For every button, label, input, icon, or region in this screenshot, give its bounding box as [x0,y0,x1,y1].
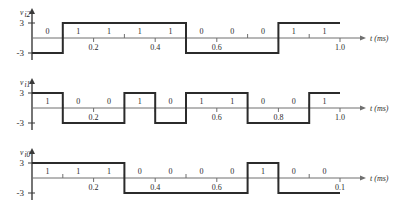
bit-label: 1 [138,27,142,36]
bit-label: 1 [323,97,327,106]
t-axis-arrow [360,175,366,180]
waveform-svg: vi2t (ms)3-30.20.40.61.00111100011vi1t (… [0,0,395,217]
tick-label: 0.6 [212,113,222,122]
bit-label: 1 [169,27,173,36]
tick-label: 0.6 [212,43,222,52]
bit-label: 0 [199,27,203,36]
bit-label: 0 [169,97,173,106]
level-label-low: -3 [17,118,25,128]
waveform-plot-vi0: vi0t (ms)3-30.20.40.60.11110000100 [17,148,389,200]
tick-label: 0.8 [273,113,283,122]
bit-label: 1 [76,27,80,36]
waveform-plot-vi1: vi1t (ms)3-30.20.60.81.01001011001 [17,78,389,130]
svg-text:i1: i1 [25,80,31,89]
bit-label: 0 [323,167,327,176]
bit-label: 0 [138,167,142,176]
bit-label: 0 [107,97,111,106]
svg-text:i0: i0 [25,150,31,159]
bit-label: 0 [169,167,173,176]
t-axis-unit-label: t (ms) [370,104,389,113]
tick-label: 1.0 [335,43,345,52]
bit-label: 0 [261,27,265,36]
tick-label: 0.4 [150,183,160,192]
t-axis-unit-label: t (ms) [370,174,389,183]
svg-text:v: v [20,148,24,157]
t-axis-arrow [360,105,366,110]
tick-label: 0.2 [89,43,99,52]
bit-label: 1 [323,27,327,36]
bit-label: 0 [76,97,80,106]
svg-text:i2: i2 [25,10,31,19]
svg-text:v: v [20,78,24,87]
bit-label: 1 [292,27,296,36]
tick-label: 0.2 [89,113,99,122]
bit-label: 1 [107,27,111,36]
level-label-low: -3 [17,188,25,198]
t-axis-unit-label: t (ms) [370,34,389,43]
bit-label: 0 [261,97,265,106]
bit-label: 1 [45,167,49,176]
tick-label: 1.0 [335,113,345,122]
bit-label: 1 [45,97,49,106]
tick-label: 0.2 [89,183,99,192]
bit-label: 0 [292,97,296,106]
bit-label: 1 [230,97,234,106]
level-label-high: 3 [20,18,25,28]
bit-label: 0 [45,27,49,36]
bit-label: 1 [138,97,142,106]
level-label-low: -3 [17,48,25,58]
tick-label: 0.1 [335,183,345,192]
bit-label: 1 [199,97,203,106]
level-label-high: 3 [20,158,25,168]
bit-label: 0 [230,167,234,176]
bit-label: 1 [261,167,265,176]
tick-label: 0.4 [150,43,160,52]
svg-text:v: v [20,8,24,17]
waveform-figure: vi2t (ms)3-30.20.40.61.00111100011vi1t (… [0,0,395,217]
tick-label: 0.6 [212,183,222,192]
bit-label: 0 [230,27,234,36]
bit-label: 1 [76,167,80,176]
waveform-plot-vi2: vi2t (ms)3-30.20.40.61.00111100011 [17,8,389,60]
t-axis-arrow [360,35,366,40]
bit-label: 1 [107,167,111,176]
level-label-high: 3 [20,88,25,98]
bit-label: 0 [199,167,203,176]
bit-label: 0 [292,167,296,176]
